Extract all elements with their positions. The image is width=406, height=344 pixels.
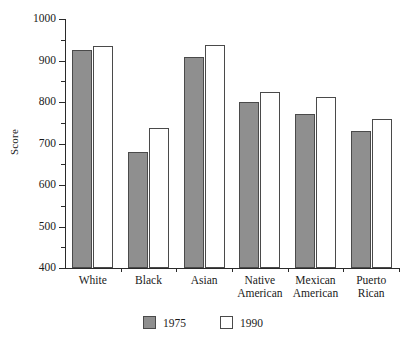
legend-item-1990[interactable]: 1990 [220,316,263,329]
bar-1975 [351,131,371,268]
bar-chart: Score 1000900800700600500400 WhiteBlackA… [0,0,406,344]
plot-area: 1000900800700600500400 [65,19,399,268]
x-axis-label-line: White [65,274,121,287]
x-axis-label-line: Asian [176,274,232,287]
bar-1975 [184,57,204,268]
x-axis-separator [288,268,289,272]
y-tick-label: 900 [39,55,56,67]
bar-1975 [72,50,92,268]
bar-group [184,19,225,268]
y-tick-minor [61,247,65,248]
x-axis-label: MexicanAmerican [288,274,344,300]
legend-swatch-icon [220,316,233,329]
x-axis-label: Black [121,274,177,287]
y-tick-minor [61,123,65,124]
x-axis-label-line: Puerto [343,274,399,287]
x-axis-label: White [65,274,121,287]
y-tick-label: 700 [39,138,56,150]
y-tick-label: 1000 [33,13,56,25]
legend-label: 1975 [163,317,186,329]
bar-group [72,19,113,268]
x-axis-label: Asian [176,274,232,287]
bar-group [239,19,280,268]
bar-group [351,19,392,268]
y-tick-minor [61,206,65,207]
legend-item-1975[interactable]: 1975 [143,316,186,329]
bar-1990 [205,45,225,268]
y-tick-label: 800 [39,96,56,108]
y-tick-label: 600 [39,179,56,191]
bar-1975 [128,152,148,268]
y-tick-major [59,268,65,269]
y-tick-label: 500 [39,221,56,233]
bar-1990 [372,119,392,268]
x-axis-separator [121,268,122,272]
bar-group [295,19,336,268]
y-tick-major [59,227,65,228]
x-axis-separator [343,268,344,272]
bar-1990 [316,97,336,268]
x-axis-label-line: Native [232,274,288,287]
y-tick-minor [61,81,65,82]
y-tick-minor [61,164,65,165]
bar-1975 [295,114,315,268]
x-axis-label: NativeAmerican [232,274,288,300]
x-axis-separator [176,268,177,272]
y-tick-major [59,185,65,186]
legend: 19751990 [0,316,406,329]
x-axis-label-line: American [232,287,288,300]
x-axis-label-line: Mexican [288,274,344,287]
bar-group [128,19,169,268]
y-axis-title: Score [8,112,20,172]
x-axis-label-line: Black [121,274,177,287]
bar-1990 [93,46,113,268]
x-axis-separator [232,268,233,272]
bar-1990 [149,128,169,268]
y-tick-major [59,19,65,20]
legend-swatch-icon [143,316,156,329]
y-tick-major [59,61,65,62]
x-axis-label-line: Rican [343,287,399,300]
y-tick-minor [61,40,65,41]
y-tick-major [59,144,65,145]
x-axis-label-line: American [288,287,344,300]
x-axis-separator [399,268,400,272]
x-axis-label: PuertoRican [343,274,399,300]
y-tick-major [59,102,65,103]
bar-1975 [239,102,259,268]
bar-1990 [260,92,280,268]
legend-label: 1990 [240,317,263,329]
y-tick-label: 400 [39,262,56,274]
y-axis-line [65,19,66,268]
